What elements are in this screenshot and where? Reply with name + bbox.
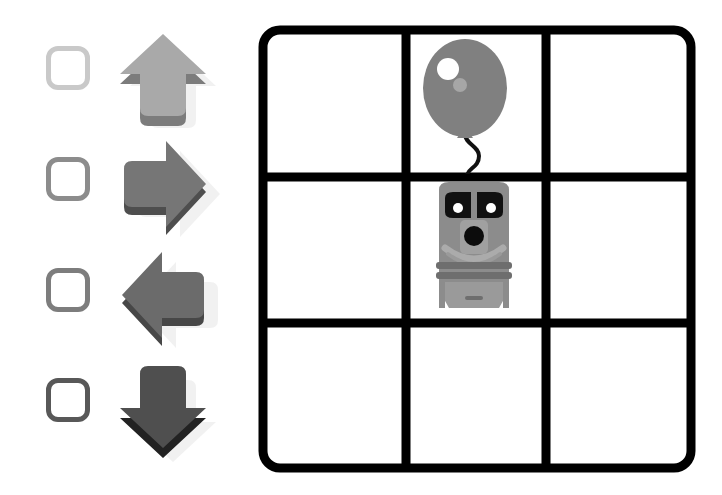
balloon-icon[interactable] bbox=[403, 26, 545, 174]
checkbox-right[interactable] bbox=[46, 157, 90, 201]
arrow-left-icon[interactable] bbox=[118, 250, 228, 360]
option-row-left[interactable] bbox=[0, 250, 250, 362]
arrow-up-icon[interactable] bbox=[118, 28, 228, 138]
grid-cell-r2c0[interactable] bbox=[267, 327, 406, 464]
arrow-down-icon[interactable] bbox=[118, 360, 228, 470]
grid-cell-r1c2[interactable] bbox=[550, 181, 687, 323]
option-row-right[interactable] bbox=[0, 139, 250, 251]
direction-option-list bbox=[0, 0, 250, 495]
train-icon[interactable] bbox=[403, 174, 545, 322]
grid-cell-r0c2[interactable] bbox=[550, 34, 687, 177]
checkbox-down[interactable] bbox=[46, 378, 90, 422]
screenshot-stage bbox=[0, 0, 722, 495]
checkbox-left[interactable] bbox=[46, 268, 90, 312]
grid-cell-r0c0[interactable] bbox=[267, 34, 406, 177]
grid-cell-r1c0[interactable] bbox=[267, 181, 406, 323]
arrow-right-icon[interactable] bbox=[118, 139, 228, 249]
option-row-down[interactable] bbox=[0, 360, 250, 472]
checkbox-up[interactable] bbox=[46, 46, 90, 90]
grid-cell-r2c2[interactable] bbox=[550, 327, 687, 464]
grid-cell-r2c1[interactable] bbox=[410, 327, 542, 464]
option-row-up[interactable] bbox=[0, 28, 250, 140]
